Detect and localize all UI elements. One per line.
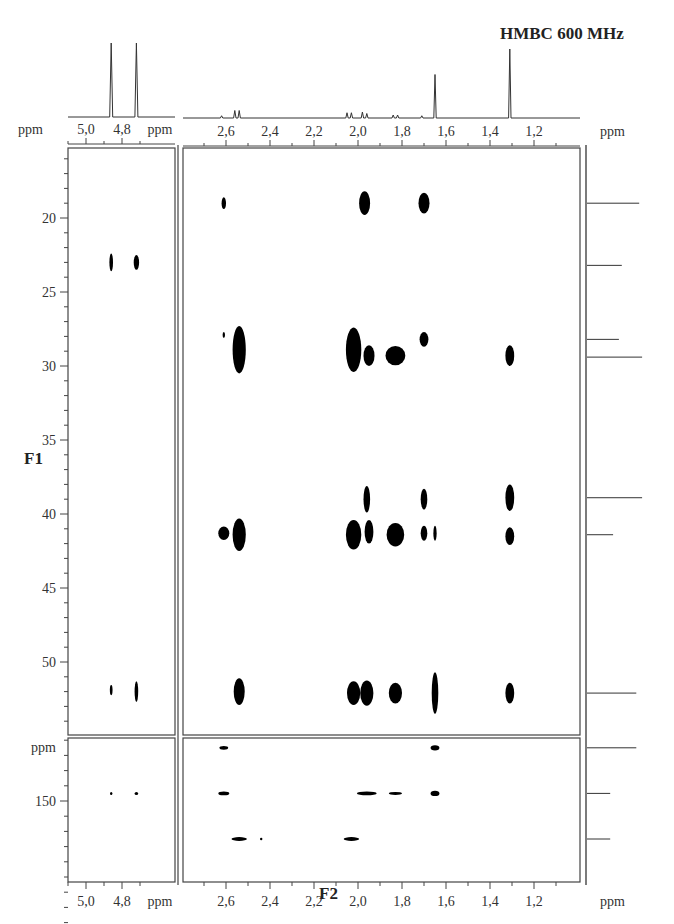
- axis-labels: 2,62,62,42,42,22,22,02,01,81,81,61,61,41…: [18, 122, 625, 909]
- f1-tick-label: 30: [42, 359, 56, 374]
- cross-peaks: [109, 191, 514, 841]
- cross-peak: [431, 791, 440, 796]
- unit-label: ppm: [18, 122, 43, 137]
- f2-projection-left: [68, 43, 175, 117]
- cross-peak: [419, 193, 430, 214]
- cross-peak: [386, 346, 406, 365]
- f2-axis-label: F2: [319, 884, 338, 904]
- projections: [68, 43, 642, 839]
- cross-peak: [218, 792, 229, 796]
- cross-peak: [344, 837, 359, 841]
- unit-label: ppm: [31, 740, 56, 755]
- panel-frames: [68, 145, 586, 885]
- cross-peak: [432, 672, 439, 713]
- f1-tick-label: 40: [42, 507, 56, 522]
- f2-left-tick-label-bottom: 5,0: [77, 894, 95, 909]
- cross-peak: [505, 527, 514, 545]
- f2-left-tick-label-top: 5,0: [77, 122, 95, 137]
- f1-tick-label: 35: [42, 433, 56, 448]
- f2-tick-label-top: 1,6: [437, 124, 455, 139]
- unit-label: ppm: [148, 122, 173, 137]
- cross-peak: [134, 255, 139, 270]
- f2-tick-label-top: 2,4: [261, 124, 279, 139]
- panel-lmain: [183, 738, 580, 882]
- axis-ticks: [60, 138, 580, 923]
- cross-peak: [389, 683, 402, 704]
- cross-peak: [364, 486, 371, 513]
- f2-projection-main: [183, 49, 580, 118]
- cross-peak: [222, 197, 226, 209]
- cross-peak: [420, 332, 429, 347]
- cross-peak: [360, 681, 373, 706]
- cross-peak: [223, 332, 225, 338]
- cross-peak: [421, 489, 428, 510]
- hmbc-spectrum: 2,62,62,42,42,22,22,02,01,81,81,61,61,41…: [0, 0, 674, 924]
- cross-peak: [232, 837, 247, 841]
- panel-left: [68, 148, 175, 735]
- cross-peak: [505, 683, 514, 704]
- unit-label: ppm: [600, 894, 625, 909]
- cross-peak: [233, 326, 246, 373]
- cross-peak: [347, 681, 360, 705]
- f2-tick-label-top: 2,2: [305, 124, 323, 139]
- cross-peak: [359, 191, 370, 215]
- unit-label: ppm: [600, 124, 625, 139]
- f1-tick-label-lower: 150: [35, 794, 56, 809]
- f2-tick-label-bottom: 2,0: [349, 894, 367, 909]
- cross-peak: [218, 527, 229, 540]
- cross-peak: [110, 792, 112, 795]
- chart-title: HMBC 600 MHz: [500, 24, 624, 44]
- f2-tick-label-top: 2,6: [217, 124, 235, 139]
- cross-peak: [365, 520, 374, 544]
- cross-peak: [135, 681, 139, 702]
- cross-peak: [389, 792, 402, 795]
- cross-peak: [346, 520, 361, 550]
- f2-tick-label-bottom: 1,2: [525, 894, 543, 909]
- cross-peak: [110, 685, 113, 695]
- f2-tick-label-bottom: 1,6: [437, 894, 455, 909]
- unit-label: ppm: [148, 894, 173, 909]
- f2-tick-label-top: 2,0: [349, 124, 367, 139]
- cross-peak: [260, 838, 262, 840]
- f2-left-tick-label-top: 4,8: [113, 122, 131, 137]
- f2-tick-label-bottom: 1,8: [393, 894, 411, 909]
- panel-lleft: [68, 738, 175, 882]
- cross-peak: [233, 518, 246, 551]
- f1-tick-label: 45: [42, 581, 56, 596]
- cross-peak: [505, 345, 514, 366]
- cross-peak: [357, 792, 377, 796]
- f2-left-tick-label-bottom: 4,8: [113, 894, 131, 909]
- cross-peak: [505, 484, 514, 511]
- f2-tick-label-top: 1,8: [393, 124, 411, 139]
- f2-tick-label-top: 1,4: [481, 124, 499, 139]
- f1-tick-label: 25: [42, 285, 56, 300]
- f1-axis-label: F1: [24, 449, 43, 469]
- f1-tick-label: 50: [42, 655, 56, 670]
- f2-tick-label-bottom: 1,4: [481, 894, 499, 909]
- cross-peak: [364, 345, 375, 366]
- f1-tick-label: 20: [42, 211, 56, 226]
- f2-tick-label-top: 1,2: [525, 124, 543, 139]
- cross-peak: [109, 254, 113, 272]
- cross-peak: [431, 745, 440, 750]
- cross-peak: [387, 523, 405, 547]
- f2-tick-label-bottom: 2,4: [261, 894, 279, 909]
- cross-peak: [433, 526, 436, 541]
- cross-peak: [421, 526, 428, 541]
- f2-tick-label-bottom: 2,6: [217, 894, 235, 909]
- cross-peak: [135, 792, 139, 795]
- panel-main: [183, 148, 580, 735]
- cross-peak: [219, 746, 228, 750]
- cross-peak: [346, 328, 361, 372]
- cross-peak: [234, 678, 245, 705]
